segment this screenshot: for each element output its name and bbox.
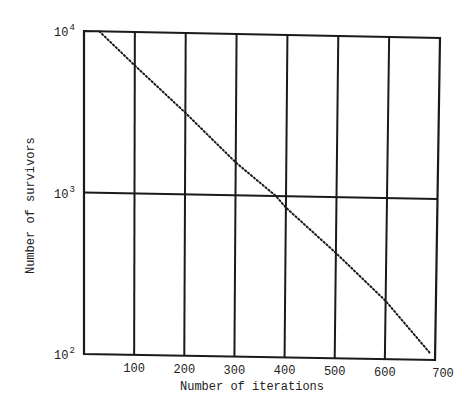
y-tick-labels: 104103102 bbox=[54, 23, 75, 363]
y-tick-label: 104 bbox=[54, 23, 75, 40]
x-tick-labels: 100200300400500600700 bbox=[123, 362, 454, 381]
x-tick-label: 700 bbox=[432, 367, 454, 381]
x-tick-label: 400 bbox=[274, 364, 296, 378]
survivors-chart: 100200300400500600700 104103102 Number o… bbox=[0, 0, 473, 413]
x-tick-label: 500 bbox=[324, 365, 346, 379]
x-tick-label: 300 bbox=[224, 364, 246, 378]
x-tick-label: 200 bbox=[173, 363, 195, 377]
x-axis-label: Number of iterations bbox=[180, 380, 324, 394]
gridlines bbox=[84, 32, 438, 359]
survivors-line bbox=[99, 31, 430, 353]
x-tick-label: 100 bbox=[123, 362, 145, 376]
data-series-survivors bbox=[99, 31, 430, 353]
x-tick-label: 600 bbox=[374, 366, 396, 380]
y-axis-label: Number of survivors bbox=[24, 137, 38, 274]
y-tick-label: 102 bbox=[54, 346, 75, 363]
h-gridline bbox=[84, 193, 438, 200]
y-tick-label: 103 bbox=[54, 185, 75, 202]
